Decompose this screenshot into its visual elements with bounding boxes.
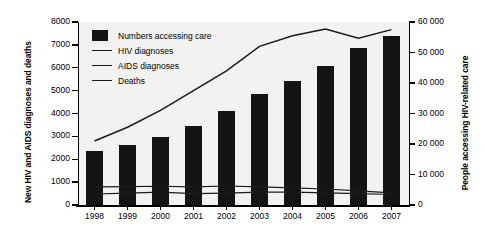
line-deaths <box>95 192 392 194</box>
x-axis-tick <box>193 205 194 210</box>
y-axis-right-title: People accessing HIV-related care <box>460 43 470 203</box>
y-axis-left-tick-label: 4000 <box>34 108 70 118</box>
x-axis-tick <box>226 205 227 210</box>
y-axis-right-tick-label: 0 <box>418 199 423 209</box>
legend-item[interactable]: HIV diagnoses <box>92 43 272 58</box>
y-axis-left-tick-label: 7000 <box>34 39 70 49</box>
y-axis-left-tick-label: 2000 <box>34 153 70 163</box>
x-axis-tick <box>259 205 260 210</box>
legend-line-icon <box>92 50 112 51</box>
chart-legend: Numbers accessing careHIV diagnosesAIDS … <box>92 28 272 88</box>
y-axis-right-tick-label: 40 000 <box>418 77 444 87</box>
line-aids-diagnoses <box>95 186 392 193</box>
x-axis-tick <box>325 205 326 210</box>
x-axis-tick <box>391 205 392 210</box>
legend-item[interactable]: Numbers accessing care <box>92 28 272 43</box>
legend-line-icon <box>92 80 112 81</box>
y-axis-right-tick <box>409 143 415 144</box>
x-axis-tick <box>127 205 128 210</box>
x-axis-tick <box>160 205 161 210</box>
y-axis-left-title: New HIV and AIDS diagnoses and deaths <box>23 43 33 203</box>
y-axis-right-tick-label: 50 000 <box>418 47 444 57</box>
y-axis-right-tick <box>409 21 415 22</box>
y-axis-left-tick-label: 8000 <box>34 16 70 26</box>
legend-item-label: Numbers accessing care <box>118 31 212 41</box>
legend-line-icon <box>92 65 112 66</box>
x-axis-tick-label: 2007 <box>370 211 414 221</box>
y-axis-left-tick-label: 1000 <box>34 176 70 186</box>
chart-container: New HIV and AIDS diagnoses and deaths Pe… <box>0 0 485 250</box>
y-axis-left-tick-label: 5000 <box>34 85 70 95</box>
x-axis-tick <box>358 205 359 210</box>
y-axis-right-tick <box>409 113 415 114</box>
y-axis-right-tick <box>409 204 415 205</box>
y-axis-right-tick <box>409 82 415 83</box>
y-axis-right-tick-label: 20 000 <box>418 138 444 148</box>
y-axis-left-tick-label: 6000 <box>34 62 70 72</box>
y-axis-right-tick-label: 10 000 <box>418 169 444 179</box>
y-axis-right-tick <box>409 52 415 53</box>
x-axis-tick <box>292 205 293 210</box>
x-axis-tick <box>94 205 95 210</box>
legend-square-icon <box>92 30 108 41</box>
legend-item-label: AIDS diagnoses <box>118 61 179 71</box>
y-axis-right-tick-label: 30 000 <box>418 108 444 118</box>
y-axis-right-tick-label: 60 000 <box>418 16 444 26</box>
y-axis-right-tick <box>409 174 415 175</box>
legend-item-label: Deaths <box>118 76 145 86</box>
y-axis-left-tick-label: 3000 <box>34 130 70 140</box>
legend-item[interactable]: AIDS diagnoses <box>92 58 272 73</box>
legend-item[interactable]: Deaths <box>92 73 272 88</box>
y-axis-left-tick-label: 0 <box>34 199 70 209</box>
legend-item-label: HIV diagnoses <box>118 46 173 56</box>
